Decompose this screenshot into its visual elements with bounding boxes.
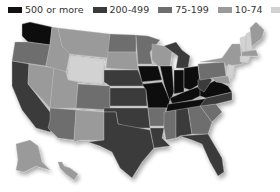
state-kansas	[110, 88, 147, 106]
legend-label: 10-74	[235, 4, 263, 15]
legend-swatch	[158, 7, 172, 13]
state-washington	[22, 22, 52, 45]
legend-swatch	[8, 7, 22, 13]
state-nebraska	[104, 70, 144, 86]
state-connecticut	[240, 56, 250, 62]
state-colorado	[76, 84, 110, 110]
legend-label: 200-499	[110, 4, 150, 15]
map-svg	[0, 16, 280, 192]
state-new-jersey	[228, 64, 234, 78]
state-ohio	[184, 66, 200, 90]
legend-swatch	[271, 7, 280, 13]
us-choropleth-map	[0, 16, 280, 192]
legend-item-500-or-more: 500 or more	[8, 4, 84, 15]
state-hawaii	[58, 162, 78, 180]
map-legend: 500 or more 200-499 75-199 10-74 0-9	[8, 4, 280, 15]
legend-item-0-9: 0-9	[271, 4, 280, 15]
legend-item-75-199: 75-199	[158, 4, 209, 15]
legend-item-10-74: 10-74	[218, 4, 263, 15]
legend-swatch	[218, 7, 232, 13]
state-new-mexico	[74, 110, 104, 142]
state-north-dakota	[108, 34, 136, 52]
state-south-dakota	[106, 52, 138, 70]
legend-item-200-499: 200-499	[93, 4, 150, 15]
state-florida	[180, 134, 224, 176]
state-wyoming	[68, 56, 104, 84]
state-vermont	[240, 36, 246, 52]
state-arkansas	[148, 108, 166, 126]
state-alaska	[16, 140, 50, 172]
legend-label: 500 or more	[25, 4, 84, 15]
state-indiana	[174, 70, 184, 94]
state-arizona	[48, 108, 76, 140]
state-maine	[250, 22, 264, 46]
state-mississippi	[164, 110, 176, 140]
legend-swatch	[93, 7, 107, 13]
state-iowa	[138, 66, 162, 82]
legend-label: 75-199	[175, 4, 209, 15]
